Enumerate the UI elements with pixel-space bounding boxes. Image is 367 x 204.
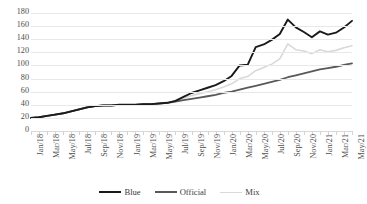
- x-axis-tick-label: May/21: [356, 134, 367, 178]
- gridline: [31, 52, 352, 53]
- x-axis-tick-label: Nov/19: [212, 134, 223, 178]
- legend-label: Official: [180, 187, 207, 197]
- legend-swatch: [99, 191, 121, 193]
- x-axis-tick-label: Jul/18: [83, 134, 94, 178]
- gridline: [31, 65, 352, 66]
- gridline: [31, 79, 352, 80]
- legend-swatch: [155, 191, 177, 193]
- x-axis-tick-label: Jul/19: [180, 134, 191, 178]
- x-axis-tick-label: Sep/18: [99, 134, 110, 178]
- x-axis-tick-mark: [352, 131, 353, 135]
- x-axis-tick-label: May/20: [260, 134, 271, 178]
- y-axis-tick-label: 120: [3, 47, 29, 55]
- y-axis-tick-label: 160: [3, 21, 29, 29]
- gridline: [31, 118, 352, 119]
- y-axis-tick-label: 100: [3, 60, 29, 68]
- gridline: [31, 92, 352, 93]
- x-axis-tick-label: Jan/20: [228, 134, 239, 178]
- legend-label: Mix: [245, 187, 259, 197]
- chart-legend: BlueOfficialMix: [0, 184, 359, 200]
- series-layer: [31, 13, 352, 131]
- x-axis-tick-label: May/19: [164, 134, 175, 178]
- series-line-blue: [31, 20, 352, 118]
- x-axis-tick-label: Nov/20: [308, 134, 319, 178]
- plot-area: [31, 13, 352, 131]
- legend-item-official[interactable]: Official: [155, 187, 207, 197]
- x-axis-tick-label: Jan/21: [324, 134, 335, 178]
- y-axis-tick-label: 20: [3, 113, 29, 121]
- y-axis-tick-label: 60: [3, 87, 29, 95]
- x-axis-tick-label: Sep/20: [292, 134, 303, 178]
- gridline: [31, 26, 352, 27]
- x-axis-tick-label: Mar/18: [51, 134, 62, 178]
- y-axis: 180160140120100806040200: [0, 0, 29, 144]
- x-axis-tick-label: May/18: [67, 134, 78, 178]
- legend-label: Blue: [124, 187, 140, 197]
- x-axis-tick-label: Sep/19: [196, 134, 207, 178]
- x-axis-tick-label: Nov/18: [115, 134, 126, 178]
- x-axis-tick-label: Mar/20: [244, 134, 255, 178]
- x-axis-tick-label: Jan/19: [132, 134, 143, 178]
- y-axis-tick-label: 0: [3, 126, 29, 134]
- x-axis-tick-label: Jan/18: [35, 134, 46, 178]
- legend-item-mix[interactable]: Mix: [220, 187, 259, 197]
- y-axis-tick-label: 40: [3, 100, 29, 108]
- x-axis-tick-label: Mar/19: [148, 134, 159, 178]
- y-axis-tick-label: 180: [3, 8, 29, 16]
- y-axis-tick-label: 80: [3, 74, 29, 82]
- gridline: [31, 39, 352, 40]
- series-line-mix: [31, 44, 352, 118]
- gridline: [31, 13, 352, 14]
- x-axis-tick-label: Mar/21: [340, 134, 351, 178]
- x-axis: Jan/18Mar/18May/18Jul/18Sep/18Nov/18Jan/…: [31, 134, 352, 178]
- y-axis-tick-label: 140: [3, 34, 29, 42]
- legend-swatch: [220, 192, 242, 193]
- x-axis-tick-label: Jul/20: [276, 134, 287, 178]
- legend-item-blue[interactable]: Blue: [99, 187, 140, 197]
- gridline: [31, 105, 352, 106]
